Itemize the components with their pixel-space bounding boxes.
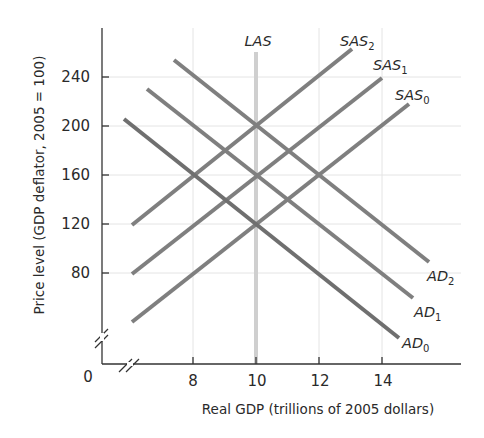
ad-curves [124, 60, 429, 338]
y-tick-label-160: 160 [61, 166, 90, 184]
y-tick-label-80: 80 [71, 264, 90, 282]
sas2-label-main: SAS [340, 33, 368, 49]
sas0-label: SAS0 [395, 87, 430, 106]
as-ad-chart: 240 200 160 120 80 0 8 10 12 14 Real GDP… [0, 0, 484, 438]
ad2-label: AD2 [426, 268, 454, 287]
ad1-line [147, 89, 413, 298]
y-tick-label-200: 200 [61, 117, 90, 135]
sas2-label-sub: 2 [368, 41, 374, 52]
x-tick-label-8: 8 [188, 372, 198, 390]
sas1-label: SAS1 [373, 57, 408, 76]
x-tick-label-14: 14 [373, 372, 392, 390]
sas1-label-sub: 1 [401, 65, 407, 76]
ad1-label-sub: 1 [435, 312, 441, 323]
sas1-label-main: SAS [373, 57, 401, 73]
x-tick-label-12: 12 [310, 372, 329, 390]
x-tick-label-10: 10 [247, 372, 266, 390]
ad2-label-main: AD [426, 268, 448, 284]
ad1-label: AD1 [413, 304, 441, 323]
origin-label: 0 [83, 368, 93, 386]
ad0-label: AD0 [401, 335, 429, 354]
sas0-label-sub: 0 [423, 95, 429, 106]
ad0-line [124, 119, 399, 338]
y-axis-title: Price level (GDP deflator, 2005 = 100) [31, 56, 47, 315]
y-tick-label-120: 120 [61, 215, 90, 233]
y-break-gap [100, 333, 104, 341]
x-axis-title: Real GDP (trillions of 2005 dollars) [202, 401, 434, 417]
ad0-label-main: AD [401, 335, 423, 351]
ad0-label-sub: 0 [423, 343, 429, 354]
ad1-label-main: AD [413, 304, 435, 320]
las-label: LAS [244, 33, 271, 49]
sas0-label-main: SAS [395, 87, 423, 103]
y-tick-labels: 240 200 160 120 80 [61, 68, 90, 282]
ad2-label-sub: 2 [448, 276, 454, 287]
x-break-gap [127, 362, 133, 366]
x-tick-labels: 8 10 12 14 [188, 372, 392, 390]
y-tick-label-240: 240 [61, 68, 90, 86]
sas2-label: SAS2 [340, 33, 375, 52]
